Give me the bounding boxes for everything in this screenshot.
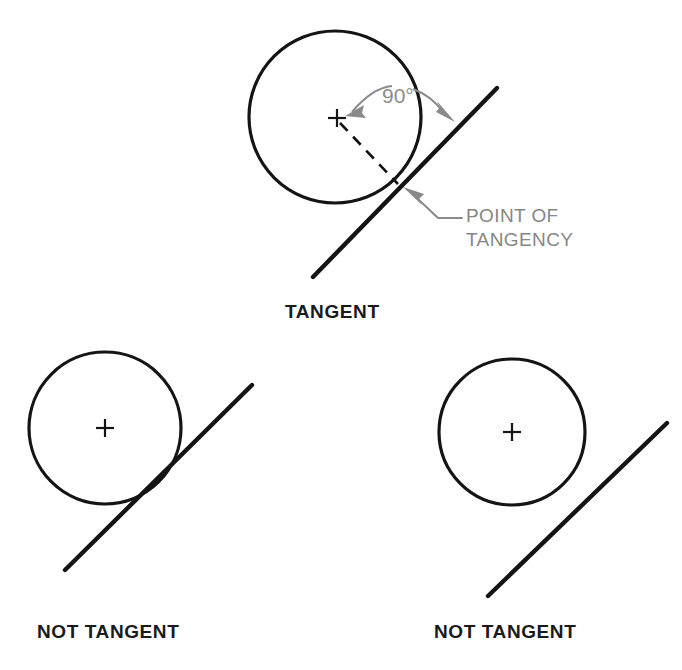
tangency-diagram: 90° POINT OF TANGENCY TANGENT NOT TANGEN…: [0, 0, 682, 670]
caption-not-tangent-right: NOT TANGENT: [434, 621, 576, 642]
caption-not-tangent-left: NOT TANGENT: [37, 621, 179, 642]
tangent-center-mark: [328, 109, 346, 127]
point-of-tangency-leader: [403, 187, 462, 218]
tangent-radius-dashed: [340, 123, 398, 184]
angle-arrow-right-icon: [436, 101, 455, 122]
caption-tangent: TANGENT: [285, 301, 380, 322]
point-of-tangency-label-line1: POINT OF: [466, 205, 559, 226]
secant-line: [65, 385, 252, 570]
panel-not-tangent-separate: NOT TANGENT: [434, 359, 667, 642]
separate-center-mark: [503, 423, 521, 441]
diagram-canvas: 90° POINT OF TANGENCY TANGENT NOT TANGEN…: [0, 0, 682, 670]
angle-label: 90°: [382, 84, 414, 107]
secant-center-mark: [96, 419, 114, 437]
panel-not-tangent-secant: NOT TANGENT: [29, 352, 252, 642]
point-of-tangency-label-line2: TANGENCY: [466, 229, 573, 250]
panel-tangent: 90° POINT OF TANGENCY TANGENT: [249, 31, 573, 322]
separate-line: [488, 423, 667, 596]
